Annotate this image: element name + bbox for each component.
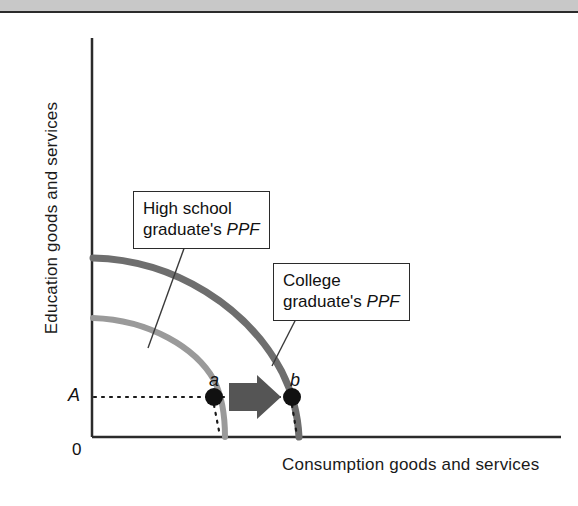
shift-arrow-icon	[229, 375, 281, 419]
ppf-curve-college	[93, 258, 299, 437]
callout-highschool-line2-prefix: graduate's	[143, 220, 227, 239]
callout-highschool-ppf: High school graduate's PPF	[133, 191, 270, 249]
callout-highschool-line2: graduate's PPF	[143, 219, 260, 240]
point-a-dotted-drop	[214, 405, 220, 436]
callout-highschool-line1: High school	[143, 198, 260, 219]
callout-highschool-leader	[148, 243, 186, 348]
callout-college-ppf: College graduate's PPF	[273, 263, 410, 321]
x-axis-title: Consumption goods and services	[282, 455, 539, 475]
callout-college-line2-italic: PPF	[367, 292, 400, 311]
y-axis-title: Education goods and services	[42, 88, 62, 348]
callout-college-line1: College	[283, 270, 400, 291]
point-b-label: b	[290, 370, 300, 391]
ppf-curve-highschool	[93, 318, 225, 437]
callout-college-leader	[272, 315, 298, 366]
ppf-plot	[0, 0, 578, 506]
origin-label: 0	[72, 440, 81, 460]
y-axis-tick-label-A: A	[68, 385, 80, 406]
callout-college-line2-prefix: graduate's	[283, 292, 367, 311]
callout-college-line2: graduate's PPF	[283, 291, 400, 312]
callout-highschool-line2-italic: PPF	[227, 220, 260, 239]
ppf-figure: Education goods and services Consumption…	[0, 0, 578, 506]
point-a-label: a	[209, 370, 219, 391]
